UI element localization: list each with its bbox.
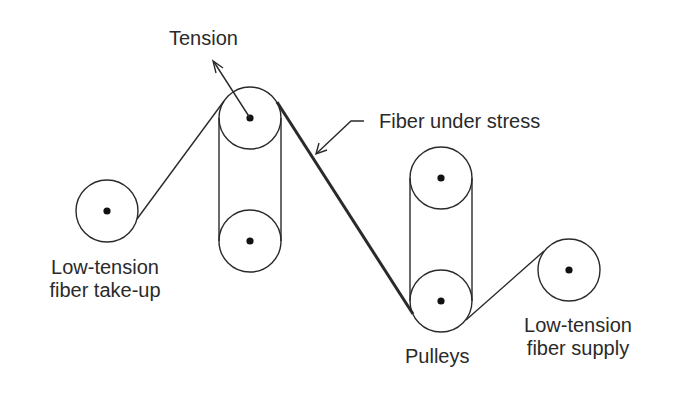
fiber-low-tension-supply: [466, 251, 544, 320]
take-up-spool: [76, 180, 138, 242]
pulleys-label: Pulleys: [405, 345, 469, 368]
supply-label-line2: fiber supply: [508, 337, 648, 360]
supply-label: Low-tension fiber supply: [508, 314, 648, 360]
supply-spool: [538, 239, 600, 301]
guide-pulley-assembly: [410, 147, 472, 332]
takeup-label-line1: Low-tension: [30, 256, 180, 279]
takeup-label: Low-tension fiber take-up: [30, 256, 180, 302]
takeup-label-line2: fiber take-up: [30, 279, 180, 302]
fiber-under-stress-label: Fiber under stress: [379, 110, 540, 133]
fiber-low-tension-takeup: [137, 101, 224, 219]
tension-pulley-assembly: [219, 87, 281, 272]
stress-leader-arrow-icon: [316, 121, 364, 154]
supply-label-line1: Low-tension: [508, 314, 648, 337]
tension-label: Tension: [169, 27, 238, 50]
fiber-under-stress: [277, 102, 413, 314]
